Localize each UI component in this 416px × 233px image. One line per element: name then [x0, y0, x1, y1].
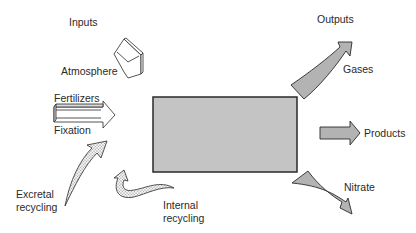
gases-label: Gases [343, 63, 373, 75]
diagram-canvas: Inputs Atmosphere Fertilizers Fixation E… [0, 0, 416, 233]
products-label: Products [364, 127, 405, 139]
excretal-recycling-label-line1: Excretal [16, 188, 54, 200]
internal-recycling-label-line2: recycling [163, 212, 204, 224]
excretal-recycling-arrow-icon [65, 141, 107, 206]
central-box [153, 97, 297, 172]
atmosphere-arrow-icon [114, 38, 143, 78]
fertilizers-label: Fertilizers [54, 92, 100, 104]
nitrate-arrow-icon [292, 171, 352, 214]
nitrate-label: Nitrate [344, 181, 375, 193]
inputs-heading: Inputs [69, 16, 98, 28]
fixation-label: Fixation [54, 124, 91, 136]
diagram-graphics [0, 0, 416, 233]
internal-recycling-arrow-icon [114, 170, 174, 198]
products-arrow-icon [320, 121, 360, 145]
internal-recycling-label-line1: Internal [163, 199, 198, 211]
atmosphere-label: Atmosphere [61, 65, 118, 77]
excretal-recycling-label-line2: recycling [16, 201, 57, 213]
outputs-heading: Outputs [317, 13, 354, 25]
